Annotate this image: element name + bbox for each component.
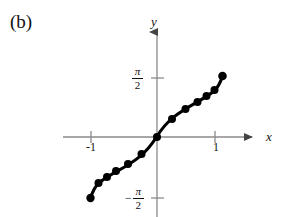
- x-axis-label: x: [266, 129, 272, 145]
- figure-panel: (b): [0, 0, 286, 217]
- data-point: [103, 173, 111, 181]
- fraction-stack: π 2: [133, 186, 144, 211]
- data-point: [211, 86, 219, 94]
- data-point: [168, 115, 176, 123]
- data-point: [124, 160, 132, 168]
- fraction-sign: −: [125, 192, 132, 205]
- data-point: [194, 98, 202, 106]
- fraction-numerator: π: [133, 66, 143, 78]
- data-point-endpoint: [218, 72, 227, 81]
- y-tick-label-neg-pi-over-2: − π 2: [125, 186, 144, 211]
- fraction-numerator: π: [134, 186, 144, 198]
- data-point: [203, 92, 211, 100]
- y-axis-label: y: [151, 14, 157, 30]
- x-tick-label-neg1: -1: [83, 140, 99, 155]
- data-point: [182, 105, 190, 113]
- data-point: [112, 167, 120, 175]
- x-tick-label-pos1: 1: [209, 140, 223, 155]
- y-tick-label-pi-over-2: π 2: [131, 66, 143, 91]
- fraction-stack: π 2: [132, 66, 143, 91]
- fraction-denominator: 2: [134, 199, 144, 211]
- data-point: [86, 194, 94, 202]
- data-point: [153, 133, 161, 141]
- plot-area: [0, 0, 286, 217]
- data-point: [138, 150, 146, 158]
- data-point: [95, 179, 103, 187]
- fraction-denominator: 2: [133, 79, 143, 91]
